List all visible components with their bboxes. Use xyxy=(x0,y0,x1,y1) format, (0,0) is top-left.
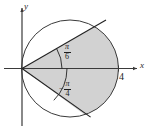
angle-sign-lower: − xyxy=(59,85,64,93)
fraction-numerator-lower: π xyxy=(65,80,71,88)
fraction-pi-over-6: π 6 xyxy=(64,43,71,62)
x-axis-label: x xyxy=(140,61,144,70)
polar-sector-figure: y x 4 π 6 − π 4 xyxy=(0,0,157,130)
x-tick-label-4: 4 xyxy=(119,72,124,82)
angle-label-pi-over-6: π 6 xyxy=(63,43,71,62)
angle-label-minus-pi-over-4: − π 4 xyxy=(59,80,71,99)
fraction-pi-over-4: π 4 xyxy=(64,80,71,99)
x-axis-arrowhead xyxy=(133,67,137,70)
y-axis-label: y xyxy=(24,2,28,11)
figure-canvas xyxy=(0,0,157,130)
fraction-denominator-lower: 4 xyxy=(65,90,71,98)
fraction-numerator-upper: π xyxy=(64,43,70,51)
shaded-sector xyxy=(22,0,157,130)
fraction-denominator-upper: 6 xyxy=(64,53,70,61)
